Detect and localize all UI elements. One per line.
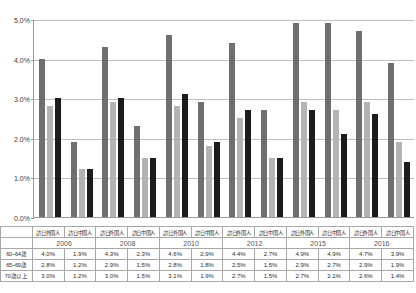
bar: [309, 110, 315, 217]
bar: [356, 31, 362, 217]
table-cell: 1.5%: [128, 271, 160, 282]
axis-tick: [31, 218, 34, 219]
bar-group: [66, 20, 98, 217]
table-cell: 2.7%: [286, 271, 318, 282]
table-category-header: 訪日中国人: [255, 227, 287, 238]
table-category-header: 訪日外国人: [350, 227, 382, 238]
y-axis: 0.0%1.0%2.0%3.0%4.0%5.0%: [0, 0, 33, 226]
table-year-header: 2010: [159, 238, 223, 249]
bar: [150, 158, 156, 217]
bar-group: [98, 20, 130, 217]
table-cell: 2.9%: [286, 260, 318, 271]
bar: [118, 98, 124, 217]
y-tick-label: 3.0%: [14, 96, 30, 103]
bar-chart: 0.0%1.0%2.0%3.0%4.0%5.0%: [0, 0, 416, 226]
table-cell: 1.2%: [64, 271, 96, 282]
table-cell: 3.0%: [96, 271, 128, 282]
table-category-header: 訪日中国人: [128, 227, 160, 238]
table-cell: 2.1%: [318, 271, 350, 282]
bar-series-container: [34, 20, 414, 217]
y-tick-label: 2.0%: [14, 135, 30, 142]
bar: [396, 142, 402, 217]
bar: [301, 102, 307, 217]
bar-group: [225, 20, 257, 217]
table-cell: 4.0%: [32, 249, 64, 260]
table-cell: 4.9%: [286, 249, 318, 260]
data-table-wrapper: 訪日外国人訪日中国人訪日外国人訪日中国人訪日外国人訪日中国人訪日外国人訪日中国人…: [0, 226, 416, 293]
table-cell: 1.5%: [255, 260, 287, 271]
bar: [237, 118, 243, 217]
bar: [87, 169, 93, 217]
table-category-header: 訪日外国人: [286, 227, 318, 238]
bar: [333, 110, 339, 217]
table-category-header: 訪日中国人: [382, 227, 414, 238]
bar-group: [161, 20, 193, 217]
bar: [277, 158, 283, 217]
bar: [110, 102, 116, 217]
y-tick-label: 0.0%: [14, 215, 30, 222]
bar: [182, 94, 188, 217]
table-cell: 2.7%: [255, 249, 287, 260]
bar: [102, 47, 108, 217]
y-tick-label: 1.0%: [14, 175, 30, 182]
table-cell: 2.9%: [350, 260, 382, 271]
bar-group: [34, 20, 66, 217]
bar: [134, 126, 140, 217]
table-corner-blank: [1, 227, 33, 238]
table-cell: 1.2%: [64, 260, 96, 271]
table-cell: 1.8%: [191, 260, 223, 271]
bar: [372, 114, 378, 217]
data-table: 訪日外国人訪日中国人訪日外国人訪日中国人訪日外国人訪日中国人訪日外国人訪日中国人…: [0, 226, 414, 282]
table-category-header: 訪日外国人: [32, 227, 64, 238]
table-cell: 4.4%: [223, 249, 255, 260]
table-category-header: 訪日外国人: [96, 227, 128, 238]
table-row: 65~69歳2.8%1.2%2.9%1.5%2.8%1.8%2.5%1.5%2.…: [1, 260, 414, 271]
bar: [364, 102, 370, 217]
table-year-header: 2006: [32, 238, 96, 249]
table-row: 60~64歳4.0%1.9%4.3%2.3%4.6%2.9%4.4%2.7%4.…: [1, 249, 414, 260]
table-cell: 1.5%: [128, 260, 160, 271]
table-category-header: 訪日中国人: [318, 227, 350, 238]
table-cell: 4.9%: [318, 249, 350, 260]
bar: [388, 63, 394, 217]
bar: [39, 59, 45, 217]
bar: [404, 162, 410, 217]
bar-group: [383, 20, 415, 217]
table-category-header: 訪日外国人: [159, 227, 191, 238]
bar: [206, 146, 212, 217]
bar: [229, 43, 235, 217]
table-cell: 1.9%: [64, 249, 96, 260]
table-row: 70歳以上3.0%1.2%3.0%1.5%3.1%1.9%2.7%1.5%2.7…: [1, 271, 414, 282]
table-cell: 4.7%: [350, 249, 382, 260]
table-cell: 2.9%: [96, 260, 128, 271]
bar: [261, 110, 267, 217]
table-cell: 2.3%: [128, 249, 160, 260]
bar: [47, 106, 53, 217]
table-cell: 3.9%: [382, 249, 414, 260]
table-row-label: 65~69歳: [1, 260, 33, 271]
table-row-label: 70歳以上: [1, 271, 33, 282]
bar: [325, 23, 331, 217]
bar: [142, 158, 148, 217]
bar-group: [256, 20, 288, 217]
table-category-header: 訪日中国人: [191, 227, 223, 238]
table-cell: 2.7%: [318, 260, 350, 271]
bar-group: [193, 20, 225, 217]
table-cell: 3.0%: [32, 271, 64, 282]
table-cell: 4.3%: [96, 249, 128, 260]
bar: [79, 169, 85, 217]
chart-page: 0.0%1.0%2.0%3.0%4.0%5.0% 訪日外国人訪日中国人訪日外国人…: [0, 0, 416, 293]
bar: [166, 35, 172, 217]
table-cell: 2.8%: [32, 260, 64, 271]
table-cell: 2.8%: [159, 260, 191, 271]
bar: [55, 98, 61, 217]
table-row-label: 60~64歳: [1, 249, 33, 260]
bar: [71, 142, 77, 217]
table-year-header: 2008: [96, 238, 160, 249]
bar: [245, 110, 251, 217]
table-year-header: 2015: [286, 238, 350, 249]
table-category-header: 訪日中国人: [64, 227, 96, 238]
bar: [174, 106, 180, 217]
bar: [198, 102, 204, 217]
y-tick-label: 5.0%: [14, 17, 30, 24]
